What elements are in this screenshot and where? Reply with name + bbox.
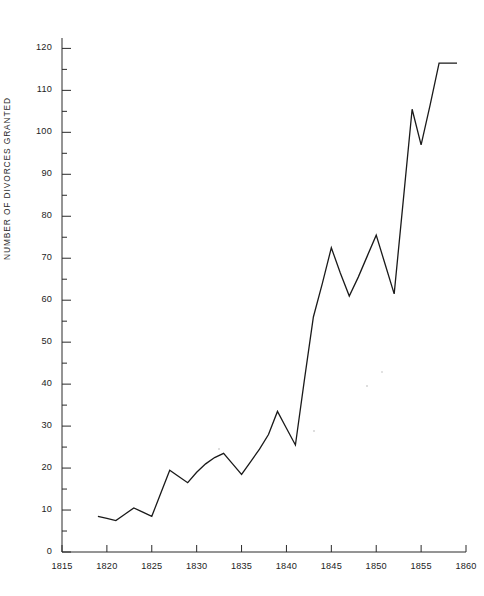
y-axis-tick-label: 40 <box>26 378 52 388</box>
y-axis-tick-label: 80 <box>26 210 52 220</box>
y-axis-tick-label: 50 <box>26 336 52 346</box>
x-axis-tick-label: 1825 <box>132 561 172 571</box>
paper-speck <box>366 385 368 387</box>
y-axis-title: NUMBER OF DIVORCES GRANTED <box>2 80 12 260</box>
paper-speck <box>313 430 315 432</box>
x-axis-tick-label: 1830 <box>177 561 217 571</box>
y-axis-tick-label: 90 <box>26 168 52 178</box>
axis-ticks-group <box>62 48 466 552</box>
y-axis-tick-label: 30 <box>26 420 52 430</box>
y-axis-tick-label: 120 <box>26 42 52 52</box>
x-axis-tick-label: 1860 <box>446 561 484 571</box>
y-axis-tick-label: 10 <box>26 504 52 514</box>
y-axis-tick-label: 20 <box>26 462 52 472</box>
x-axis-tick-label: 1845 <box>311 561 351 571</box>
x-axis-tick-label: 1855 <box>401 561 441 571</box>
y-axis-tick-label: 0 <box>26 546 52 556</box>
chart-plot-area <box>0 0 484 596</box>
divorce-line-chart-figure: NUMBER OF DIVORCES GRANTED 0102030405060… <box>0 0 484 596</box>
y-axis-tick-label: 70 <box>26 252 52 262</box>
x-axis-tick-label: 1815 <box>42 561 82 571</box>
y-axis-tick-label: 110 <box>26 84 52 94</box>
x-axis-tick-label: 1835 <box>222 561 262 571</box>
data-series-line <box>98 63 457 520</box>
x-axis-tick-label: 1840 <box>266 561 306 571</box>
y-axis-tick-label: 100 <box>26 126 52 136</box>
paper-speck <box>381 371 383 373</box>
axes-group <box>62 38 466 552</box>
y-axis-tick-label: 60 <box>26 294 52 304</box>
paper-speck <box>218 448 220 450</box>
x-axis-tick-label: 1850 <box>356 561 396 571</box>
x-axis-tick-label: 1820 <box>87 561 127 571</box>
